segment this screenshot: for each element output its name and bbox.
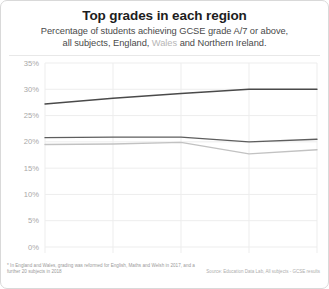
subtitle-wales-label: Wales — [152, 38, 177, 48]
chart-plot-area: 0%5%10%15%20%25%30%35% 20142015201620172… — [1, 57, 329, 253]
y-axis-tick-label: 25% — [24, 111, 39, 120]
subtitle-line-1: Percentage of students achieving GCSE gr… — [41, 26, 288, 36]
subtitle-line-2-part-b: and Northern Ireland. — [177, 38, 266, 48]
y-axis-tick-label: 5% — [28, 216, 39, 225]
header-divider — [9, 55, 320, 56]
y-axis-tick-label: 15% — [24, 164, 39, 173]
y-axis-tick-label: 30% — [24, 85, 39, 94]
y-axis-tick-labels: 0%5%10%15%20%25%30%35% — [24, 59, 39, 252]
y-axis-tick-label: 10% — [24, 190, 39, 199]
y-axis-tick-label: 35% — [24, 59, 39, 68]
line-chart-svg: 0%5%10%15%20%25%30%35% 20142015201620172… — [1, 57, 329, 253]
subtitle-line-2-part-a: all subjects, England, — [63, 38, 152, 48]
y-axis-tick-label: 0% — [28, 243, 39, 252]
chart-source: Source: Education Data Lab, All subjects… — [170, 269, 320, 274]
grid-lines — [45, 63, 317, 253]
chart-card: Top grades in each region Percentage of … — [0, 0, 329, 289]
chart-footnote: * In England and Wales, grading was refo… — [7, 263, 197, 275]
chart-subtitle: Percentage of students achieving GCSE gr… — [21, 26, 308, 49]
page-title: Top grades in each region — [9, 8, 320, 23]
y-axis-tick-label: 20% — [24, 137, 39, 146]
